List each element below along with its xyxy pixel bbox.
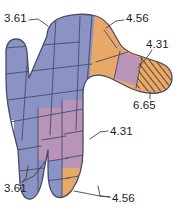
label-middle-finger-value: 4.31 xyxy=(110,126,133,138)
leader-bottom-right-b xyxy=(98,186,110,197)
label-little-ring-fingertip-value: 3.61 xyxy=(4,183,27,195)
zone-thumb-hatched-tip xyxy=(136,57,173,92)
zone-middle-finger-orange-tip xyxy=(62,168,88,212)
label-thumb-proximal-value: 4.31 xyxy=(146,39,169,51)
label-index-middle-fingertip-value: 4.56 xyxy=(112,193,135,205)
leader-top-left xyxy=(29,19,48,26)
zone-index-finger xyxy=(88,95,114,210)
label-thumb-tip-value: 6.65 xyxy=(133,100,156,112)
label-radial-palm-value: 4.56 xyxy=(126,13,149,25)
label-ulnar-palm-value: 3.61 xyxy=(4,13,27,25)
hand-sensory-figure: 3.61 4.56 4.31 6.65 4.31 3.61 4.56 xyxy=(0,0,180,212)
leader-middle-finger xyxy=(90,131,108,139)
